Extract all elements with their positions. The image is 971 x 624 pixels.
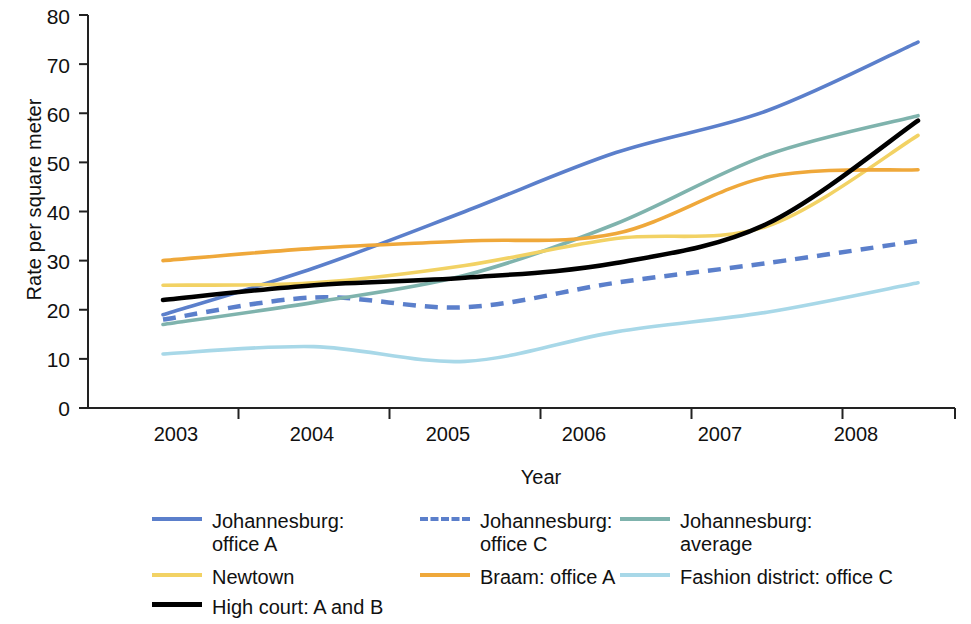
legend-item-johannesburg-office-c[interactable]: Johannesburg: office C — [420, 510, 612, 556]
legend-item-braam-office-a[interactable]: Braam: office A — [420, 566, 615, 589]
legend-swatch-icon — [152, 510, 202, 528]
legend-label: Fashion district: office C — [680, 566, 893, 589]
line-chart: Rate per square meter 80 70 60 50 40 30 … — [0, 0, 971, 624]
legend-label: Johannesburg: average — [680, 510, 812, 556]
legend-swatch-icon — [420, 510, 470, 528]
legend-swatch-icon — [420, 566, 470, 584]
legend-item-newtown[interactable]: Newtown — [152, 566, 294, 589]
legend-swatch-icon — [152, 566, 202, 584]
plot-area — [0, 0, 971, 470]
legend-label: Newtown — [212, 566, 294, 589]
legend-item-johannesburg-average[interactable]: Johannesburg: average — [620, 510, 812, 556]
legend-swatch-icon — [152, 596, 202, 614]
legend-item-fashion-district-office-c[interactable]: Fashion district: office C — [620, 566, 893, 589]
series-line — [163, 116, 918, 325]
legend-label: Johannesburg: office C — [480, 510, 612, 556]
legend-label: Johannesburg: office A — [212, 510, 344, 556]
legend-swatch-icon — [620, 566, 670, 584]
series-line — [163, 170, 918, 261]
chart-legend: Johannesburg: office A Johannesburg: off… — [152, 506, 962, 624]
legend-label: Braam: office A — [480, 566, 615, 589]
legend-swatch-icon — [620, 510, 670, 528]
y-axis-ticks — [79, 15, 88, 408]
legend-item-high-court-a-and-b[interactable]: High court: A and B — [152, 596, 383, 619]
legend-label: High court: A and B — [212, 596, 383, 619]
data-series-group — [163, 42, 918, 362]
x-axis-ticks — [239, 408, 956, 419]
series-line — [163, 135, 918, 285]
legend-item-johannesburg-office-a[interactable]: Johannesburg: office A — [152, 510, 344, 556]
